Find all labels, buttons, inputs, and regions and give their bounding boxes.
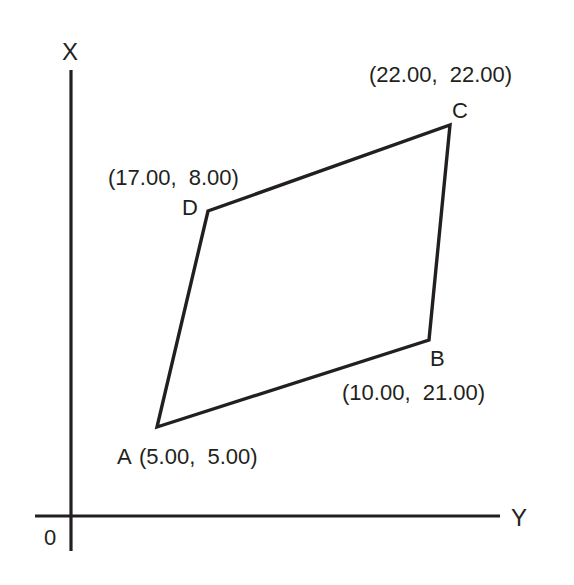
vertex-a-coords: (5.00, 5.00) xyxy=(139,444,258,469)
vertex-c-label: C xyxy=(452,98,468,123)
vertex-d-label: D xyxy=(182,195,198,220)
vertex-d-coords: (17.00, 8.00) xyxy=(108,165,239,190)
vertex-b-label: B xyxy=(430,346,445,371)
vertex-c-coords: (22.00, 22.00) xyxy=(369,62,512,87)
vertex-b-coords: (10.00, 21.00) xyxy=(342,380,485,405)
vertex-a-label: A xyxy=(117,444,132,469)
x-axis-label: X xyxy=(62,38,78,65)
origin-label: 0 xyxy=(44,525,56,550)
y-axis-label: Y xyxy=(511,504,527,531)
coordinate-diagram: X Y 0 A (5.00, 5.00) B (10.00, 21.00) C … xyxy=(0,0,574,585)
